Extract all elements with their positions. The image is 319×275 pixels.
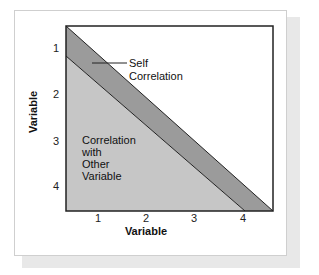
x-tick-3: 3: [191, 212, 197, 224]
x-axis-title: Variable: [125, 225, 167, 237]
x-tick-2: 2: [143, 212, 149, 224]
x-tick-4: 4: [240, 212, 246, 224]
other-correlation-label-line3: Other: [82, 158, 110, 170]
y-tick-1: 1: [53, 42, 59, 54]
y-tick-3: 3: [53, 135, 59, 147]
y-tick-2: 2: [53, 88, 59, 100]
x-tick-1: 1: [95, 212, 101, 224]
y-axis-title: Variable: [27, 91, 39, 133]
self-correlation-label-line1: Self: [129, 57, 149, 69]
self-correlation-label-line2: Correlation: [129, 70, 183, 82]
other-correlation-label-line1: Correlation: [82, 134, 136, 146]
correlation-diagram: Self Correlation Correlation with Other …: [0, 0, 319, 275]
other-correlation-label-line4: Variable: [82, 170, 122, 182]
y-tick-4: 4: [53, 180, 59, 192]
other-correlation-label-line2: with: [81, 146, 102, 158]
